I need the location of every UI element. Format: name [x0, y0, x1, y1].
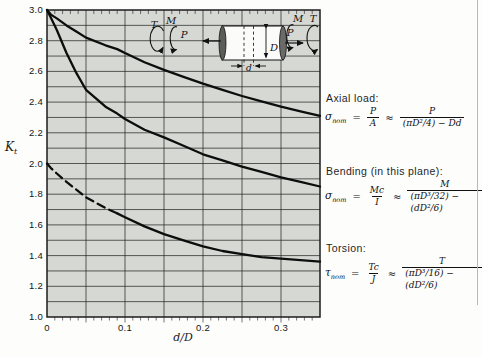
- x-tick-label: 0.2: [188, 322, 218, 333]
- y-tick-label: 1.6: [16, 219, 43, 230]
- page-scan-edge: [477, 0, 478, 305]
- y-tick-label: 2.8: [16, 35, 43, 46]
- torsion-title: Torsion:: [326, 242, 366, 254]
- d-label: d: [246, 63, 252, 73]
- moment-left-arrow: [170, 27, 177, 50]
- moment-left-label: M: [165, 15, 177, 26]
- torque-left-arrow: [150, 26, 163, 51]
- x-tick-label: 0: [32, 322, 62, 333]
- x-tick-label: 0.1: [110, 322, 140, 333]
- inset-diagram: d D T M P P M T: [47, 10, 320, 317]
- bending-title: Bending (in this plane):: [326, 165, 443, 177]
- figure: d D T M P P M T Kt d/D 3.02.82.62.42.22.…: [0, 0, 482, 357]
- D-label: D: [269, 42, 278, 53]
- y-tick-label: 2.2: [16, 127, 43, 138]
- axial-formula: σnom = PA ≈ P(πD²/4) − Dd: [325, 106, 464, 130]
- x-tick-label: 0.3: [266, 322, 296, 333]
- y-axis-title: Kt: [5, 140, 17, 156]
- y-tick-label: 2.6: [16, 65, 43, 76]
- y-tick-label: 1.2: [16, 280, 43, 291]
- bending-formula: σnom = McI ≈ M(πD³/32) − (dD²/6): [325, 179, 482, 214]
- y-tick-label: 1.0: [16, 311, 43, 322]
- torque-right-arrow: [307, 26, 318, 51]
- moment-right-label: M: [292, 13, 304, 24]
- y-tick-label: 3.0: [16, 4, 43, 15]
- torsion-formula: τnom = TcJ ≈ T(πD³/16) − (dD²/6): [325, 256, 482, 291]
- bar-left-face: [219, 26, 226, 60]
- y-tick-label: 1.4: [16, 250, 43, 261]
- axial-title: Axial load:: [326, 92, 379, 104]
- axial-left-label: P: [180, 29, 188, 40]
- torque-left-label: T: [151, 19, 159, 30]
- torque-right-label: T: [310, 13, 318, 24]
- y-tick-label: 2.0: [16, 158, 43, 169]
- y-tick-label: 2.4: [16, 96, 43, 107]
- y-tick-label: 1.8: [16, 188, 43, 199]
